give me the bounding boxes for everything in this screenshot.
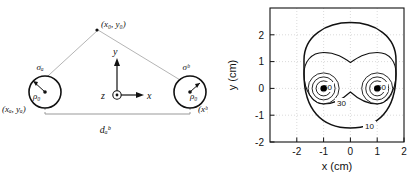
conductor-b-sigma-label: σᵇ [183, 62, 190, 72]
conductor-a-group: ρ₀ σₐ (xₐ, yₐ) [2, 62, 61, 114]
x-tick-label-0: 0 [348, 146, 354, 157]
y-tick-label-0: 0 [258, 83, 264, 94]
x-axis-label: x [146, 90, 152, 101]
y-tick-label--1: -1 [255, 110, 264, 121]
geometry-diagram-panel: (x₀, y₀) dₐᵇ ρ₀ σₐ (xₐ, yₐ) [0, 0, 208, 174]
geometry-diagram-svg: (x₀, y₀) dₐᵇ ρ₀ σₐ (xₐ, yₐ) [0, 0, 208, 174]
separation-label: dₐᵇ [100, 124, 112, 135]
field-point-dot [95, 28, 98, 31]
y-axis-label: y [112, 46, 118, 57]
conductor-a-sigma-label: σₐ [36, 62, 43, 72]
x-tick-label-2: 2 [401, 146, 407, 157]
y-tick-labels: 2 1 0 -1 -2 [255, 30, 264, 148]
source-dot-conductor-a [320, 85, 326, 91]
y-tick-label-2: 2 [258, 30, 264, 41]
contour-lines [304, 23, 396, 128]
x-tick-label-1: 1 [374, 146, 380, 157]
z-axis-label: z [100, 90, 105, 101]
y-tick-label-1: 1 [258, 56, 264, 67]
x-tick-label--1: -1 [319, 146, 328, 157]
z-axis-dot-icon [116, 94, 119, 97]
conductor-b-radius-label: ρ₀ [189, 91, 197, 101]
coordinate-axes-group: y x z [100, 46, 152, 101]
x-tick-labels: -2 -1 0 1 2 [292, 146, 407, 157]
y-axis-title: y (cm) [226, 60, 238, 91]
y-axis-arrowhead-icon [114, 58, 120, 66]
source-dot-conductor-b [374, 85, 380, 91]
conductor-a-radius-label: ρ₀ [32, 91, 40, 101]
x-tick-label--2: -2 [292, 146, 301, 157]
conductor-b-group: ρ₀ σᵇ (xᵇ, yᵇ) [174, 62, 208, 114]
x-axis-arrowhead-icon [136, 92, 144, 98]
conductor-a-position-label: (xₐ, yₐ) [2, 104, 26, 114]
contour-label-10: 10 [365, 122, 374, 131]
conductor-b-position-label: (xᵇ, yᵇ) [198, 104, 208, 114]
ray-lines [37, 30, 190, 86]
ray-to-conductor-b [98, 30, 190, 86]
contour-level-10 [304, 23, 396, 128]
plot-frame [270, 8, 404, 142]
contour-plot-svg: 50 50 30 10 [208, 0, 415, 174]
gridlines [270, 8, 404, 142]
figure-root: (x₀, y₀) dₐᵇ ρ₀ σₐ (xₐ, yₐ) [0, 0, 415, 174]
field-point-label: (x₀, y₀) [101, 19, 126, 29]
contour-plot-panel: 50 50 30 10 [208, 0, 415, 174]
y-tick-label--2: -2 [255, 137, 264, 148]
contour-label-30: 30 [337, 99, 346, 108]
x-axis-title: x (cm) [322, 160, 353, 172]
